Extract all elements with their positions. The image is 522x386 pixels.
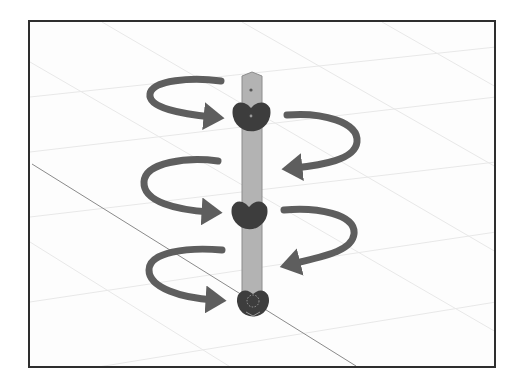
viewport-canvas xyxy=(30,22,494,366)
x-axis-line xyxy=(32,164,356,366)
root-joint[interactable] xyxy=(237,291,269,317)
rotation-arrow-left-middle xyxy=(144,160,218,212)
rotation-arrow-right-middle xyxy=(284,209,354,264)
rotation-arrow-right-top xyxy=(287,114,357,168)
3d-viewport xyxy=(28,20,496,368)
